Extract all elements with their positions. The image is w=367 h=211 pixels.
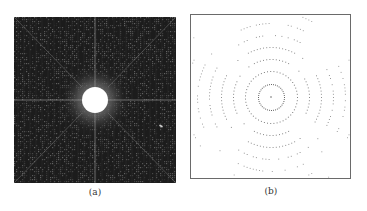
ring-dot-pattern-graphic	[191, 15, 350, 178]
diffraction-image-graphic	[14, 17, 176, 183]
caption-a: (a)	[75, 187, 115, 197]
central-bright-disk	[82, 87, 108, 113]
caption-b: (b)	[251, 186, 291, 196]
panel-b-ring-pattern	[190, 14, 351, 179]
panel-a-diffraction-image	[14, 17, 176, 183]
